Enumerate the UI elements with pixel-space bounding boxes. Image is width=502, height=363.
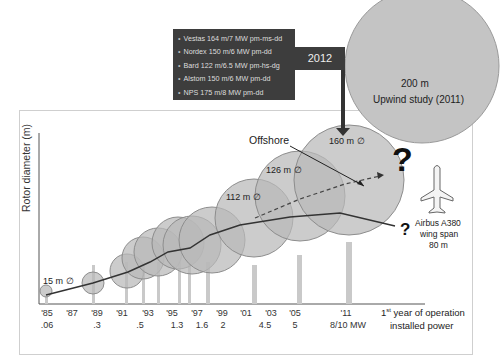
power-label: .3 — [77, 320, 117, 330]
diameter-160-label: 160 m ∅ — [329, 136, 365, 146]
year-2012-tag: 2012 — [295, 47, 345, 70]
year-tick: '03 — [259, 308, 283, 318]
y-axis-label: Rotor diameter (m) — [20, 124, 32, 212]
year-tick: '89 — [85, 308, 109, 318]
callout-item: NPS 175 m/8 MW pm-dd — [178, 86, 295, 99]
year-tick: '87 — [60, 308, 84, 318]
power-label: .5 — [120, 320, 160, 330]
airbus-label-line3: 80 m — [429, 240, 448, 250]
upwind-200m-circle — [345, 0, 499, 143]
year-tick: '05 — [283, 308, 307, 318]
airplane-icon — [421, 166, 453, 214]
airbus-label-line1: Airbus A380 — [415, 218, 461, 228]
upwind-label: Upwind study (2011) — [373, 94, 464, 105]
power-label: .06 — [27, 320, 67, 330]
power-label: 2 — [203, 320, 243, 330]
diameter-126-label: 126 m ∅ — [266, 165, 302, 175]
year-tick: '95 — [160, 308, 184, 318]
year-2012-callout: Vestas 164 m/7 MW pm-ms-dd Nordex 150 m/… — [173, 29, 295, 100]
year-tick: '97 — [185, 308, 209, 318]
offshore-label: Offshore — [249, 134, 289, 146]
diameter-112-label: 112 m ∅ — [226, 192, 261, 202]
upwind-size: 200 m — [401, 78, 429, 89]
year-tick: '85 — [35, 308, 59, 318]
year-tick: '91 — [110, 308, 134, 318]
diameter-15-label: 15 m ∅ — [43, 276, 74, 286]
power-label: 8/10 MW — [326, 320, 370, 330]
question-mark-small: ? — [400, 220, 410, 240]
year-tick: '01 — [234, 308, 258, 318]
airbus-label-line2: wing span — [420, 229, 458, 239]
question-mark-large: ? — [392, 140, 413, 179]
x-axis-title-line1: 1st year of operation — [381, 307, 465, 318]
power-label: 5 — [275, 320, 315, 330]
year-tick: '99 — [210, 308, 234, 318]
x-axis-title-line2: installed power — [390, 320, 453, 331]
callout-item: Bard 122 m/6.5 MW pm-hs-dg — [178, 59, 295, 72]
year-tick: '93 — [136, 308, 160, 318]
callout-item: Vestas 164 m/7 MW pm-ms-dd — [178, 32, 295, 45]
year-arrow-shaft — [341, 70, 345, 130]
callout-item: Nordex 150 m/6 MW pm-dd — [178, 45, 295, 58]
year-tick: '11 — [334, 308, 358, 318]
callout-item: Alstom 150 m/6 MW pm-dd — [178, 72, 295, 85]
rotor-1985 — [40, 285, 52, 297]
